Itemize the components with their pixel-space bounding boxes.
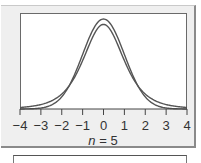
x-tick-label: −2: [52, 118, 72, 133]
x-tick-label: 2: [135, 118, 155, 133]
x-tick-label: −3: [31, 118, 51, 133]
next-chart-panel: [13, 155, 187, 163]
x-tick-label: −4: [10, 118, 30, 133]
x-axis-label-value: = 5: [96, 133, 118, 148]
x-tick-label: 0: [94, 118, 114, 133]
x-tick-label: 1: [114, 118, 134, 133]
t-distribution-curve: [20, 24, 187, 107]
normal-curve: [20, 19, 187, 109]
x-tick-label: 3: [156, 118, 176, 133]
x-tick-label: 4: [177, 118, 197, 133]
x-tick-label: −1: [73, 118, 93, 133]
x-axis-label: n = 5: [88, 133, 117, 148]
